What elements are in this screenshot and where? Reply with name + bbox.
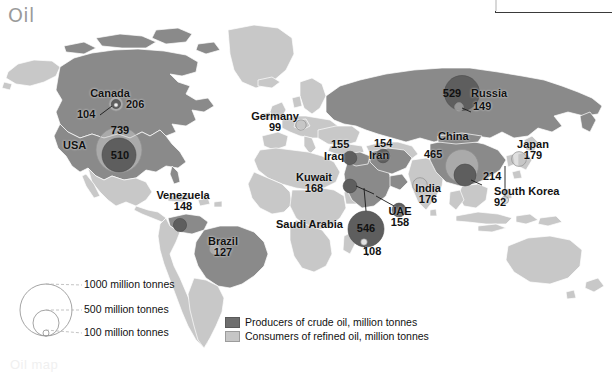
label-south-korea: South Korea 92	[494, 186, 559, 209]
label-kuwait: Kuwait 168	[286, 172, 342, 195]
label-germany-consumer: 99	[246, 122, 304, 133]
label-canada-producer: 104	[77, 109, 95, 120]
bubble-venezuela-producer	[173, 218, 186, 231]
legend-series: Producers of crude oil, million tonnes C…	[225, 316, 429, 344]
legend-row-consumers: Consumers of refined oil, million tonnes	[225, 330, 429, 342]
label-canada-consumer: 206	[126, 99, 144, 110]
legend-row-producers: Producers of crude oil, million tonnes	[225, 316, 429, 328]
label-brazil-consumer: 127	[200, 247, 246, 258]
label-saudi-arabia-producer: 546	[350, 222, 382, 234]
label-china-consumer: 465	[424, 149, 442, 160]
consumers-swatch-icon	[225, 331, 240, 342]
label-russia-producer: 529	[434, 87, 470, 99]
label-venezuela-producer: 148	[146, 201, 220, 212]
label-iraq-name: Iraq	[324, 151, 344, 162]
window-frame-corner	[495, 0, 612, 13]
window-frame-tick	[495, 0, 497, 11]
label-russia-consumer: 149	[473, 101, 491, 112]
label-iraq-producer: 155	[331, 139, 349, 150]
bubble-kuwait-producer	[343, 179, 357, 193]
bubble-russia-consumer	[455, 103, 464, 112]
label-china-producer: 214	[483, 171, 501, 182]
legend-size-500: 500 million tonnes	[84, 303, 169, 315]
label-russia-name: Russia	[471, 88, 507, 99]
label-saudi-arabia-consumer: 108	[363, 246, 381, 257]
label-india-consumer: 176	[409, 194, 447, 205]
label-germany: Germany 99	[246, 111, 304, 134]
label-uae-producer: 158	[381, 217, 419, 228]
label-china-name: China	[438, 131, 469, 142]
label-india: India 176	[409, 183, 447, 206]
oil-map-infographic: .land{stroke:#ffffff;stroke-width:.7;str…	[0, 0, 612, 373]
page-footer-ghost: Oil map	[10, 357, 58, 372]
legend-producers-label: Producers of crude oil, million tonnes	[245, 316, 417, 328]
legend-size-1000: 1000 million tonnes	[84, 278, 174, 290]
page-title: Oil	[8, 4, 35, 26]
bubble-china-producer	[454, 164, 476, 186]
label-japan: Japan 179	[511, 139, 555, 162]
legend-size-100: 100 million tonnes	[84, 326, 169, 338]
legend-consumers-label: Consumers of refined oil, million tonnes	[245, 330, 429, 342]
bubble-iraq-producer	[343, 151, 357, 165]
label-south-korea-consumer: 92	[494, 197, 559, 208]
bubble-iraq	[343, 151, 357, 165]
label-venezuela: Venezuela 148	[146, 190, 220, 213]
bubble-venezuela	[173, 218, 186, 231]
legend-bubble-sizes: 1000 million tonnes 500 million tonnes 1…	[14, 266, 214, 324]
label-usa-consumer: 739	[104, 124, 136, 136]
producers-swatch-icon	[225, 317, 240, 328]
label-brazil: Brazil 127	[200, 236, 246, 259]
label-usa-producer: 510	[104, 149, 136, 161]
label-iran-name: Iran	[369, 150, 389, 161]
label-iran-producer: 154	[374, 138, 392, 149]
label-japan-consumer: 179	[511, 150, 555, 161]
label-kuwait-producer: 168	[286, 183, 342, 194]
label-usa-name: USA	[63, 140, 86, 151]
label-uae: UAE 158	[381, 206, 419, 229]
label-saudi-arabia-name: Saudi Arabia	[276, 219, 343, 230]
